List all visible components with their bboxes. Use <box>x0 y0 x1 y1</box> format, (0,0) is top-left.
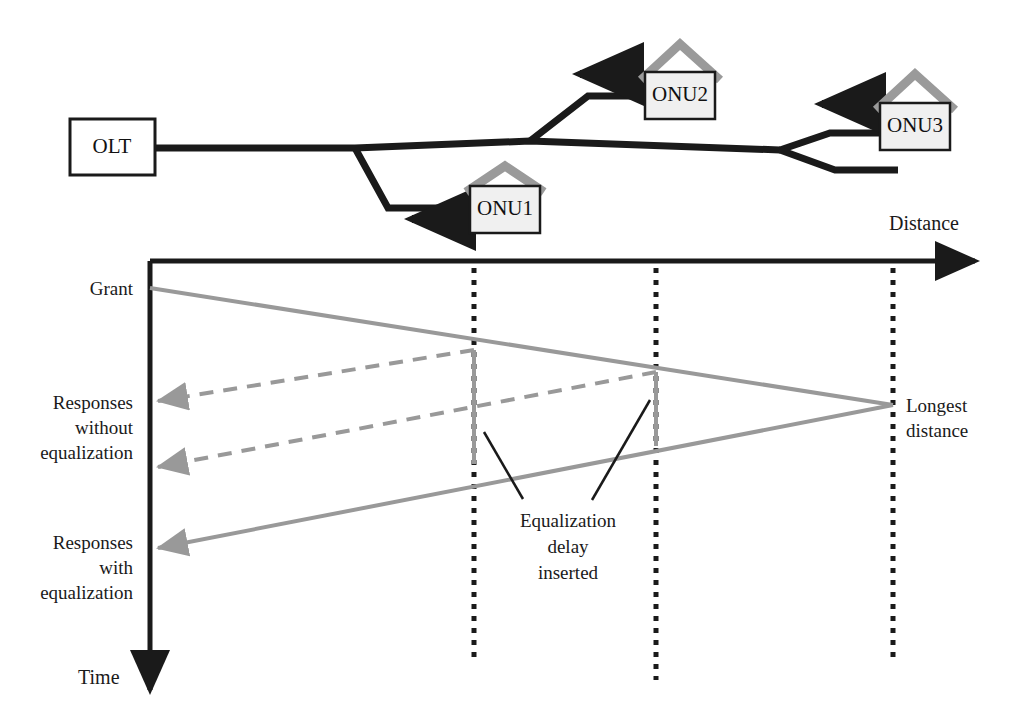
trunk-fiber <box>155 141 780 150</box>
responses-without-equalization-label: Responses without equalization <box>40 392 134 463</box>
grant-label: Grant <box>90 278 134 299</box>
annotation-leader-onu1 <box>484 432 523 499</box>
onu2-label: ONU2 <box>652 82 708 106</box>
response-without-equalization-onu2 <box>158 372 656 467</box>
onu3-drop-fiber <box>780 133 880 150</box>
pon-equalization-diagram: OLT ONU1 ONU2 <box>0 0 1021 720</box>
label-line-3: equalization <box>40 582 133 603</box>
annotation-leader-onu2 <box>592 400 650 500</box>
grant-downstream-line <box>150 288 893 405</box>
longest-distance-label: Longest distance <box>906 395 968 441</box>
spare-fiber-stub <box>780 150 898 170</box>
olt-node[interactable]: OLT <box>70 119 155 175</box>
onu3-node[interactable]: ONU3 <box>876 74 955 150</box>
label-line-1: Responses <box>53 532 133 553</box>
label-line-3: equalization <box>40 442 133 463</box>
onu1-label: ONU1 <box>477 196 533 220</box>
annotation-line-1: Equalization <box>520 510 617 531</box>
label-line-2: without <box>75 417 134 438</box>
label-line-2: distance <box>906 420 968 441</box>
distance-axis-label: Distance <box>889 212 959 234</box>
annotation-line-3: inserted <box>538 562 599 583</box>
figure-root: OLT ONU1 ONU2 <box>0 0 1021 720</box>
annotation-line-2: delay <box>547 536 589 557</box>
onu1-drop-fiber <box>355 148 470 208</box>
label-line-1: Longest <box>906 395 968 416</box>
label-line-2: with <box>99 557 133 578</box>
onu3-label: ONU3 <box>887 113 943 137</box>
responses-with-equalization-label: Responses with equalization <box>40 532 133 603</box>
response-without-equalization-onu1 <box>158 350 474 401</box>
timing-diagram: Distance Time Grant Responses without <box>40 212 975 690</box>
onu1-node[interactable]: ONU1 <box>466 166 544 233</box>
onu2-node[interactable]: ONU2 <box>641 44 720 119</box>
time-axis-label: Time <box>78 666 120 688</box>
olt-label: OLT <box>93 134 132 158</box>
onu2-drop-fiber <box>530 96 645 141</box>
label-line-1: Responses <box>53 392 133 413</box>
equalization-delay-annotation: Equalization delay inserted <box>520 510 617 583</box>
network-topology: OLT ONU1 ONU2 <box>70 44 955 233</box>
